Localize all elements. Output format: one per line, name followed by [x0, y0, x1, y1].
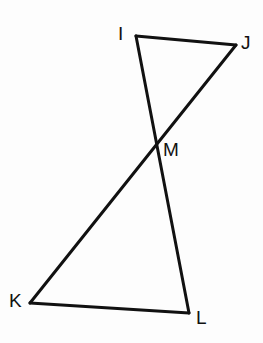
geometry-figure: I J M K L	[0, 0, 263, 343]
vertex-label-l: L	[196, 308, 207, 327]
vertex-label-i: I	[118, 24, 123, 43]
segment-JK	[30, 45, 236, 303]
figure-canvas	[0, 0, 263, 343]
segment-KL	[30, 303, 189, 313]
segment-IJ	[136, 36, 236, 45]
vertex-label-k: K	[9, 291, 22, 310]
vertex-label-j: J	[241, 33, 251, 52]
vertex-label-m: M	[163, 140, 179, 159]
segment-IL	[136, 36, 189, 313]
